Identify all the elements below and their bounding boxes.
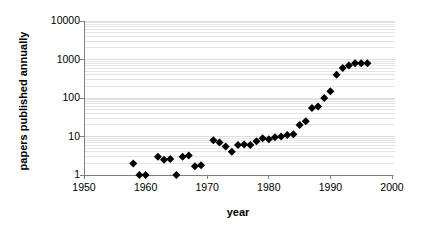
- data-point: [283, 131, 291, 139]
- data-point: [333, 71, 341, 79]
- data-point: [326, 87, 334, 95]
- data-point: [129, 159, 137, 167]
- data-point: [277, 133, 285, 141]
- data-point: [185, 152, 193, 160]
- data-point: [320, 94, 328, 102]
- data-point: [172, 171, 180, 179]
- data-point: [179, 153, 187, 161]
- x-axis-title: year: [84, 206, 392, 218]
- data-markers: [129, 59, 371, 179]
- chart-figure: papers published annually 11010010001000…: [0, 0, 424, 231]
- data-point: [166, 155, 174, 163]
- data-point: [142, 171, 150, 179]
- plot-area: [0, 0, 424, 231]
- data-point: [289, 130, 297, 138]
- gridlines: [84, 21, 395, 175]
- data-point: [308, 104, 316, 112]
- data-point: [222, 142, 230, 150]
- data-point: [296, 121, 304, 129]
- data-point: [228, 148, 236, 156]
- data-point: [363, 59, 371, 67]
- data-point: [197, 161, 205, 169]
